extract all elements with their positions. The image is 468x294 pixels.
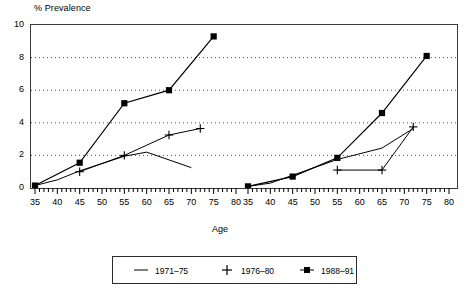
- marker-plus: [120, 151, 128, 159]
- x-tick-label: 40: [48, 197, 66, 207]
- x-tick-label: 75: [418, 197, 436, 207]
- y-axis-title: % Prevalence: [34, 3, 91, 13]
- x-tick-label: 35: [26, 197, 44, 207]
- marker-plus: [333, 166, 341, 174]
- marker-plus: [75, 168, 83, 176]
- x-tick-label: 70: [182, 197, 200, 207]
- chart-legend: 1971–751976–801988–91: [112, 256, 357, 284]
- x-tick-label: 40: [261, 197, 279, 207]
- x-tick-label: 65: [373, 197, 391, 207]
- marker-plus: [196, 124, 204, 132]
- y-tick-label: 8: [8, 52, 24, 62]
- x-tick-label: 80: [440, 197, 458, 207]
- x-tick-label: 60: [138, 197, 156, 207]
- marker-plus: [378, 166, 386, 174]
- marker-square: [334, 155, 340, 161]
- marker-square: [424, 53, 430, 59]
- marker-square: [379, 110, 385, 116]
- legend-label: 1976–80: [241, 266, 274, 276]
- legend-marker-plus-icon: [219, 263, 235, 277]
- y-tick-label: 4: [8, 117, 24, 127]
- x-tick-label: 50: [306, 197, 324, 207]
- x-tick-label: 45: [71, 197, 89, 207]
- y-tick-label: 6: [8, 84, 24, 94]
- marker-square: [77, 160, 83, 166]
- marker-plus: [165, 131, 173, 139]
- marker-square: [166, 87, 172, 93]
- plot-area: [30, 24, 458, 189]
- x-tick-label: 35: [239, 197, 257, 207]
- series-line-1976-80: [80, 129, 201, 172]
- marker-square: [121, 100, 127, 106]
- y-tick-label: 10: [8, 19, 24, 29]
- x-tick-label: 60: [351, 197, 369, 207]
- legend-marker-line-icon: [133, 263, 149, 277]
- series-line-1971-75: [248, 129, 413, 187]
- marker-square: [211, 33, 217, 39]
- legend-label: 1971–75: [155, 266, 188, 276]
- x-axis-ticks: [30, 188, 458, 196]
- legend-marker-square-icon: [299, 263, 315, 277]
- x-tick-label: 70: [395, 197, 413, 207]
- x-tick-label: 65: [160, 197, 178, 207]
- x-tick-label: 75: [205, 197, 223, 207]
- x-axis-title: Age: [212, 224, 228, 234]
- series-line-1988-91: [35, 36, 214, 185]
- series-line-1976-80: [337, 127, 413, 170]
- plot-svg: [31, 25, 457, 188]
- x-tick-label: 55: [115, 197, 133, 207]
- y-tick-label: 0: [8, 182, 24, 192]
- x-tick-label: 55: [328, 197, 346, 207]
- series-line-1971-75: [35, 152, 191, 185]
- chart-figure: % Prevalence Age Men Women 1086420 35404…: [0, 0, 468, 294]
- y-tick-label: 2: [8, 149, 24, 159]
- marker-square: [290, 173, 296, 179]
- x-tick-label: 50: [93, 197, 111, 207]
- legend-label: 1988–91: [321, 266, 354, 276]
- x-tick-label: 45: [284, 197, 302, 207]
